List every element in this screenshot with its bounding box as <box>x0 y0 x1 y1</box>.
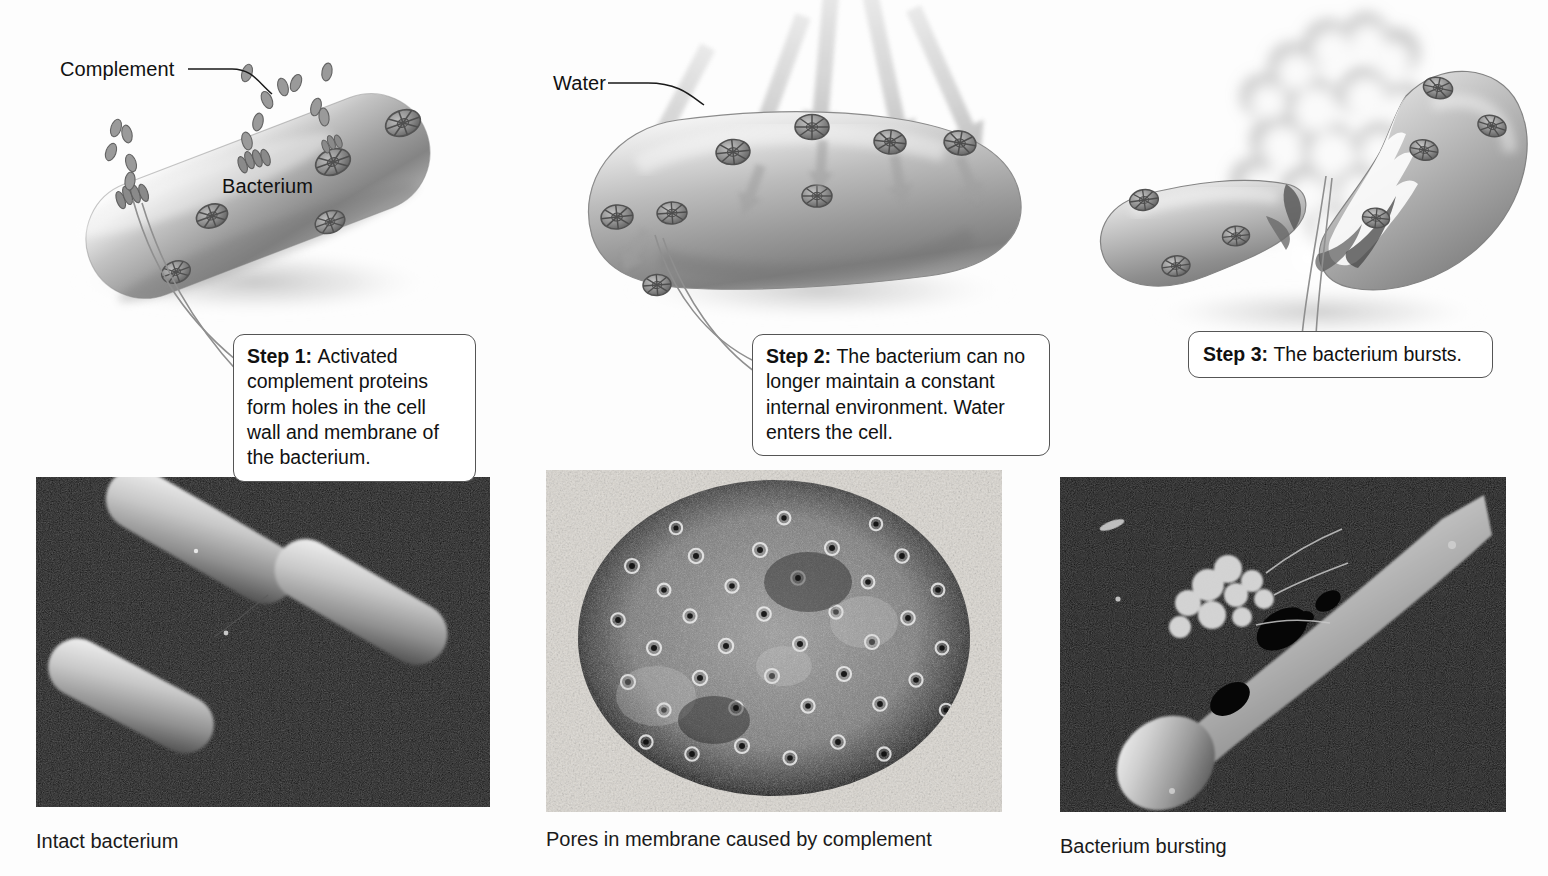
step-1-number: Step 1: <box>247 345 317 367</box>
micrograph-cell-1: Intact bacterium <box>36 460 490 853</box>
micrograph-intact-bacterium <box>36 477 490 807</box>
callout-step-3: Step 3: The bacterium bursts. <box>1188 331 1493 378</box>
step-2-number: Step 2: <box>766 345 836 367</box>
label-water: Water <box>553 72 606 95</box>
step-3-text: The bacterium bursts. <box>1273 343 1462 365</box>
callout-step-2: Step 2: The bacterium can no longer main… <box>752 334 1050 456</box>
bursting-bacterium-illustration <box>1080 0 1548 460</box>
step-3-number: Step 3: <box>1203 343 1273 365</box>
micrograph-cell-2: Pores in membrane caused by complement <box>546 460 1002 851</box>
micrograph-caption-3: Bacterium bursting <box>1060 835 1506 858</box>
micrograph-cell-3: Bacterium bursting <box>1060 460 1506 858</box>
micrograph-caption-2: Pores in membrane caused by complement <box>546 828 1002 851</box>
micrograph-caption-1: Intact bacterium <box>36 830 490 853</box>
micrograph-row: Intact bacterium <box>0 460 1548 876</box>
label-complement: Complement <box>60 58 174 81</box>
callout-step-1: Step 1: Activated complement proteins fo… <box>233 334 476 482</box>
micrograph-bacterium-bursting <box>1060 477 1506 812</box>
label-bacterium: Bacterium <box>222 175 313 198</box>
panel-step-3 <box>1080 0 1548 460</box>
complement-lysis-figure: Complement Bacterium Water Step 1: Activ… <box>0 0 1548 876</box>
micrograph-membrane-pores <box>546 470 1002 812</box>
